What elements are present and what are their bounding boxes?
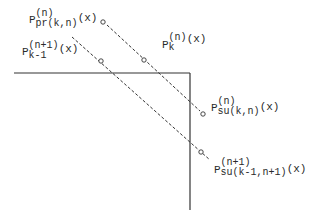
label-arg: (x) bbox=[78, 12, 98, 24]
point-km1-circle bbox=[99, 59, 103, 63]
label-base: P bbox=[29, 14, 36, 26]
point-su-circle bbox=[201, 112, 205, 116]
point-su1-circle bbox=[199, 150, 203, 154]
label-base: P bbox=[22, 46, 29, 58]
point-k-circle bbox=[142, 58, 146, 62]
label-base: P bbox=[214, 164, 221, 176]
label-arg: (x) bbox=[187, 33, 207, 45]
label-sub: pr(k,n) bbox=[36, 19, 78, 29]
point-pr-circle bbox=[101, 20, 105, 24]
label-arg: (x) bbox=[260, 101, 280, 113]
label-p-pr: P(n)pr(k,n)(x) bbox=[29, 15, 97, 35]
label-p-km1: P(n+1)k-1(x) bbox=[22, 47, 78, 67]
label-sub: k bbox=[169, 43, 187, 53]
label-p-k: P(n)k(x) bbox=[162, 40, 206, 60]
label-base: P bbox=[211, 102, 218, 114]
label-p-su1: P(n+1)su(k-1,n+1)(x) bbox=[214, 165, 306, 185]
label-sub: k-1 bbox=[29, 51, 59, 61]
label-p-su: P(n)su(k,n)(x) bbox=[211, 103, 279, 123]
label-base: P bbox=[162, 39, 169, 51]
label-arg: (x) bbox=[59, 43, 79, 55]
label-sub: su(k-1,n+1) bbox=[221, 168, 287, 178]
label-arg: (x) bbox=[287, 163, 307, 175]
label-sub: su(k,n) bbox=[218, 107, 260, 117]
